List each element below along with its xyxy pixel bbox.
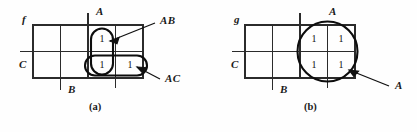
function-label-g: g bbox=[234, 14, 240, 25]
caption-b: (b) bbox=[304, 101, 317, 112]
axis-label-B-a: B bbox=[68, 84, 75, 95]
grid-lines-a bbox=[33, 25, 143, 78]
cell-value-r1c2-a: 1 bbox=[96, 59, 108, 70]
cell-value-r0c3-b: 1 bbox=[335, 33, 347, 44]
group-label-AB: AB bbox=[160, 15, 175, 26]
axis-label-B-b: B bbox=[280, 84, 287, 95]
kmap-panel-a: f A C B AB AC 1 1 1 (a) bbox=[0, 0, 208, 132]
axis-label-C-b: C bbox=[231, 59, 238, 70]
axis-label-C-a: C bbox=[19, 59, 26, 70]
cell-value-r0c2-a: 1 bbox=[96, 33, 108, 44]
caption-a: (a) bbox=[89, 101, 101, 112]
kmap-panel-b: g A C B A 1 1 1 1 (b) bbox=[209, 0, 417, 132]
cell-value-r1c2-b: 1 bbox=[308, 59, 320, 70]
cell-value-r1c3-a: 1 bbox=[124, 59, 136, 70]
kmap-figure: f A C B AB AC 1 1 1 (a) bbox=[0, 0, 417, 132]
cell-value-r0c2-b: 1 bbox=[308, 33, 320, 44]
cell-value-r1c3-b: 1 bbox=[335, 59, 347, 70]
axis-label-A-a: A bbox=[96, 6, 103, 17]
group-label-A: A bbox=[395, 80, 403, 91]
function-label-f: f bbox=[22, 14, 26, 25]
leader-AC bbox=[137, 67, 160, 79]
leader-AB bbox=[110, 23, 155, 44]
group-label-AC: AC bbox=[165, 73, 180, 84]
axis-label-A-b: A bbox=[329, 6, 336, 17]
